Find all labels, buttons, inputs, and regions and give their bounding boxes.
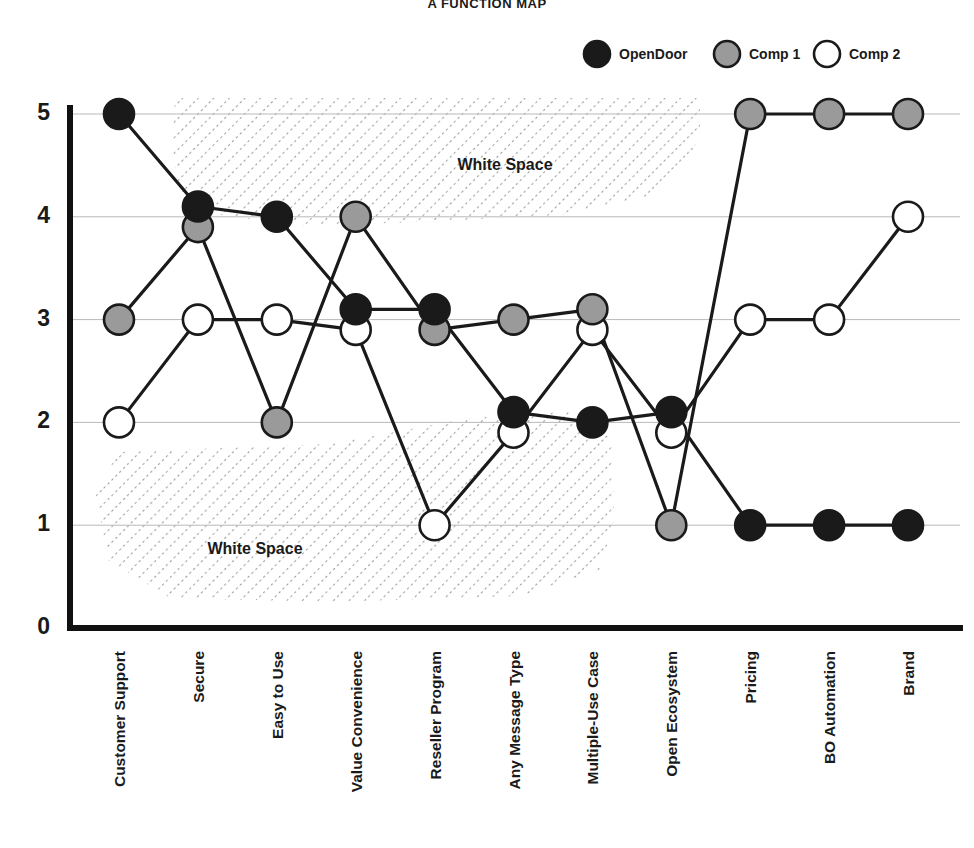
data-point-comp-2 (735, 305, 765, 335)
legend-swatch-white-circle (814, 41, 840, 67)
x-axis-tick-label: BO Automation (821, 651, 838, 764)
data-point-opendoor (262, 202, 292, 232)
y-axis-tick-label: 3 (37, 305, 50, 331)
data-point-opendoor (577, 407, 607, 437)
legend-swatch-gray-circle (714, 41, 740, 67)
y-axis-tick-label: 0 (37, 613, 50, 639)
white-space-annotation: White Space (207, 540, 302, 557)
x-axis-tick-label: Brand (900, 651, 917, 696)
function-map-chart: A FUNCTION MAP OpenDoorComp 1Comp 2 0123… (0, 0, 974, 848)
x-axis-tick-label: Customer Support (111, 651, 128, 787)
x-axis-tick-label: Easy to Use (269, 651, 286, 739)
y-axis-tick-label: 2 (37, 407, 50, 433)
x-axis-ticks: Customer SupportSecureEasy to UseValue C… (111, 651, 917, 793)
x-axis-tick-label: Any Message Type (506, 651, 523, 790)
data-point-opendoor (104, 99, 134, 129)
data-point-comp-2 (893, 202, 923, 232)
x-axis-tick-label: Secure (190, 651, 207, 703)
chart-legend: OpenDoorComp 1Comp 2 (584, 41, 901, 67)
legend-label: OpenDoor (619, 46, 688, 62)
x-axis-tick-label: Reseller Program (427, 651, 444, 779)
x-axis-tick-label: Open Ecosystem (663, 651, 680, 777)
y-axis-tick-label: 4 (37, 202, 50, 228)
data-point-opendoor (735, 510, 765, 540)
data-point-comp-1 (262, 407, 292, 437)
data-point-comp-2 (183, 305, 213, 335)
page-title: A FUNCTION MAP (427, 0, 546, 11)
chart-canvas: A FUNCTION MAP OpenDoorComp 1Comp 2 0123… (0, 0, 974, 848)
data-point-comp-2 (104, 407, 134, 437)
data-point-comp-1 (104, 305, 134, 335)
data-point-comp-1 (735, 99, 765, 129)
data-point-comp-2 (262, 305, 292, 335)
legend-label: Comp 2 (849, 46, 901, 62)
x-axis-tick-label: Pricing (742, 651, 759, 704)
data-point-opendoor (499, 397, 529, 427)
data-point-comp-1 (577, 294, 607, 324)
data-point-comp-1 (893, 99, 923, 129)
data-point-opendoor (183, 192, 213, 222)
data-point-comp-2 (814, 305, 844, 335)
data-point-opendoor (420, 294, 450, 324)
data-point-comp-1 (341, 202, 371, 232)
data-point-opendoor (341, 294, 371, 324)
data-point-comp-1 (814, 99, 844, 129)
data-point-comp-2 (420, 510, 450, 540)
y-axis-tick-label: 5 (37, 99, 50, 125)
white-space-region-lower (96, 410, 614, 602)
x-axis-tick-label: Multiple-Use Case (584, 651, 601, 785)
y-axis-ticks: 012345 (37, 99, 50, 639)
data-point-opendoor (656, 397, 686, 427)
x-axis-tick-label: Value Convenience (348, 651, 365, 793)
y-axis-tick-label: 1 (37, 510, 50, 536)
legend-swatch-black-circle (584, 41, 610, 67)
legend-label: Comp 1 (749, 46, 801, 62)
data-point-comp-1 (656, 510, 686, 540)
white-space-region-upper (172, 98, 700, 226)
white-space-annotation: White Space (457, 156, 552, 173)
data-point-opendoor (814, 510, 844, 540)
data-point-comp-1 (499, 305, 529, 335)
data-point-opendoor (893, 510, 923, 540)
